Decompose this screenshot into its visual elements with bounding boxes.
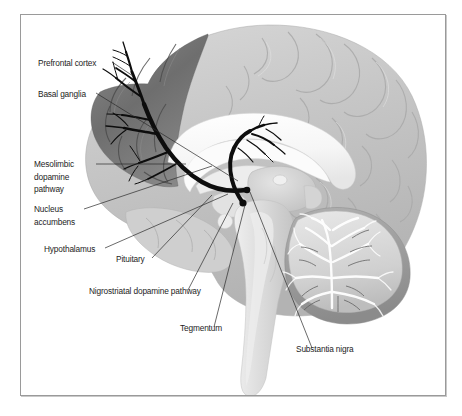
label-line: Nucleus xyxy=(34,204,63,214)
label-line: Tegmentum xyxy=(180,323,222,333)
substantia-nigra-origin-dot xyxy=(239,199,246,206)
label-hypothalamus: Hypothalamus xyxy=(44,244,95,254)
label-line: accumbens xyxy=(34,217,75,227)
label-substantia-nigra: Substantia nigra xyxy=(296,344,354,354)
label-line: Basal ganglia xyxy=(38,89,86,99)
brain-dopamine-pathway-figure: Prefrontal cortexBasal gangliaMesolimbic… xyxy=(0,0,462,416)
label-line: Mesolimbic xyxy=(34,159,74,169)
label-nucleus-accumbens: Nucleusaccumbens xyxy=(34,204,75,227)
label-line: dopamine xyxy=(34,172,70,182)
label-line: Pituitary xyxy=(116,254,146,264)
label-mesolimbic-dopamine-pathway: Mesolimbicdopaminepathway xyxy=(34,159,74,194)
brain-diagram: Prefrontal cortexBasal gangliaMesolimbic… xyxy=(0,0,462,416)
label-line: pathway xyxy=(34,184,65,194)
vta-origin-dot xyxy=(244,187,251,194)
label-nigrostriatal-dopamine-pathway: Nigrostriatal dopamine pathway xyxy=(89,286,202,296)
label-line: Substantia nigra xyxy=(296,344,354,354)
label-line: Prefrontal cortex xyxy=(38,58,97,68)
label-line: Hypothalamus xyxy=(44,244,95,254)
label-prefrontal-cortex: Prefrontal cortex xyxy=(38,58,97,68)
label-tegmentum: Tegmentum xyxy=(180,323,222,333)
label-pituitary: Pituitary xyxy=(116,254,146,264)
label-line: Nigrostriatal dopamine pathway xyxy=(89,286,202,296)
label-basal-ganglia: Basal ganglia xyxy=(38,89,86,99)
